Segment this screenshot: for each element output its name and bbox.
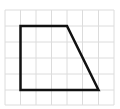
grid-diagram xyxy=(0,0,120,109)
